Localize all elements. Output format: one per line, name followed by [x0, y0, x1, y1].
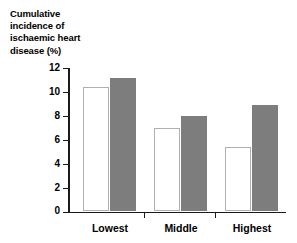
y-tick-label-4: 4: [38, 159, 60, 169]
y-tick-mark-12: [63, 68, 68, 69]
y-tick-label-0: 0: [38, 206, 60, 216]
x-tick-mark-1: [144, 213, 145, 218]
bar-middle-gray: [181, 116, 207, 212]
bar-chart-plot-area: 12 10 8 6 4 2 0 Lowest Middle Highest: [0, 0, 297, 243]
x-category-label-highest: Highest: [211, 223, 293, 234]
y-tick-mark-2: [63, 188, 68, 189]
bar-highest-gray: [252, 105, 278, 211]
y-tick-label-8: 8: [38, 111, 60, 121]
x-axis-line: [68, 212, 286, 214]
x-tick-mark-2: [215, 213, 216, 218]
bar-lowest-white: [83, 87, 109, 211]
y-tick-mark-6: [63, 140, 68, 141]
y-tick-mark-0: [63, 212, 68, 213]
bar-middle-white: [154, 128, 180, 212]
x-category-label-middle: Middle: [140, 223, 222, 234]
bar-highest-white: [225, 147, 251, 212]
bar-lowest-gray: [110, 78, 136, 212]
y-tick-mark-8: [63, 116, 68, 117]
y-tick-label-12: 12: [38, 63, 60, 73]
x-category-label-lowest: Lowest: [69, 223, 151, 234]
y-tick-mark-4: [63, 164, 68, 165]
y-tick-mark-10: [63, 92, 68, 93]
y-tick-label-6: 6: [38, 135, 60, 145]
y-tick-label-2: 2: [38, 183, 60, 193]
y-axis-line: [68, 68, 70, 213]
y-tick-label-10: 10: [38, 87, 60, 97]
